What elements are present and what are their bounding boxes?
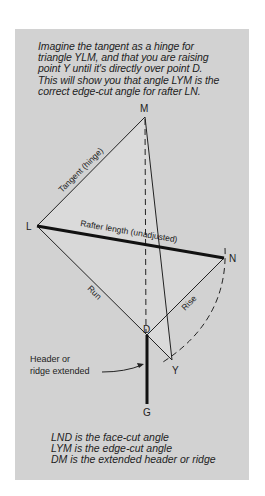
rafter-diagram: M L N D Y G Tangent (hinge) Rafter lengt… xyxy=(0,0,265,496)
label-l: L xyxy=(26,221,32,232)
callout-line1: Header or xyxy=(30,354,70,364)
legend: LND is the face-cut angle LYM is the edg… xyxy=(51,432,251,466)
label-g: G xyxy=(143,407,151,418)
arrowhead-icon xyxy=(137,363,144,368)
label-d: D xyxy=(143,324,150,335)
label-y: Y xyxy=(172,365,179,376)
label-n: N xyxy=(229,253,236,264)
legend-line: DM is the extended header or ridge xyxy=(51,454,251,465)
callout-arrow xyxy=(102,365,142,372)
callout-line2: ridge extended xyxy=(30,366,90,376)
label-m: M xyxy=(140,103,148,114)
